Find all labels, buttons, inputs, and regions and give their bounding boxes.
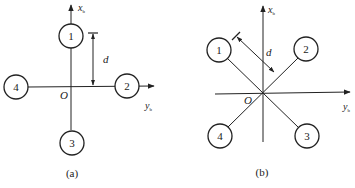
rotor-1: 1: [59, 24, 83, 48]
dimension-d-label: d: [266, 46, 272, 58]
y-axis-line: [215, 92, 350, 94]
rotor-1-label: 1: [68, 30, 74, 42]
dimension-d: d: [88, 33, 109, 85]
x-axis-label: xb: [267, 4, 275, 16]
rotor-3-label: 3: [304, 130, 310, 142]
origin-label: O: [244, 94, 252, 106]
rotor-1-label: 1: [216, 44, 222, 56]
rotor-4-label: 4: [217, 130, 223, 142]
rotor-4: 4: [4, 75, 28, 99]
rotor-1: 1: [207, 38, 231, 62]
rotor-2: 2: [115, 74, 139, 98]
rotor-2-label: 2: [303, 43, 309, 55]
rotor-4-label: 4: [13, 81, 19, 93]
quadrotor-configuration-diagram: 1 2 3 4 d xb yb O (a): [0, 0, 355, 188]
caption-b: (b): [256, 166, 269, 179]
y-axis-label: yb: [342, 101, 350, 113]
figure-b-x-configuration: 1 2 3 4 d xb yb O (b): [207, 4, 350, 179]
rotor-3: 3: [295, 124, 319, 148]
x-axis-label: xb: [77, 2, 85, 14]
origin-label: O: [60, 89, 68, 101]
rotor-4: 4: [208, 124, 232, 148]
y-axis-label: yb: [144, 100, 152, 112]
figure-a-plus-configuration: 1 2 3 4 d xb yb O (a): [4, 2, 154, 180]
dimension-d: d: [232, 32, 274, 72]
rotor-2: 2: [294, 37, 318, 61]
rotor-3-label: 3: [69, 137, 75, 149]
caption-a: (a): [66, 167, 79, 180]
dimension-d-label: d: [103, 53, 109, 65]
rotor-3: 3: [60, 131, 84, 155]
rotor-2-label: 2: [124, 80, 130, 92]
